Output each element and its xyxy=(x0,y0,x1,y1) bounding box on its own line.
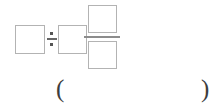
fraction-bar xyxy=(84,36,120,38)
divisor-input-box[interactable] xyxy=(58,25,87,54)
division-upper-dot xyxy=(50,32,53,35)
answer-close-paren: ) xyxy=(201,76,209,101)
dividend-input-box[interactable] xyxy=(15,25,45,54)
division-bar xyxy=(47,38,57,40)
division-sign-icon xyxy=(47,30,57,48)
answer-response-field[interactable] xyxy=(64,80,200,100)
division-lower-dot xyxy=(50,43,53,46)
fraction-numerator-input-box[interactable] xyxy=(88,5,117,33)
math-expression-canvas: ( ) xyxy=(0,0,215,108)
fraction-denominator-input-box[interactable] xyxy=(88,41,117,69)
